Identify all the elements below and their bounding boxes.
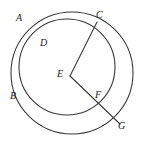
geometry-figure: A B C D E F G [0, 0, 144, 152]
point-label-e: E [57, 69, 63, 79]
point-label-f: F [95, 90, 101, 100]
segment-ec [70, 22, 97, 76]
circle-d [19, 19, 115, 115]
point-label-c: C [96, 10, 103, 20]
point-label-g: G [118, 121, 125, 131]
segments-group [70, 22, 120, 124]
point-label-d: D [40, 38, 47, 48]
point-label-a: A [16, 13, 22, 23]
point-label-b: B [10, 91, 16, 101]
